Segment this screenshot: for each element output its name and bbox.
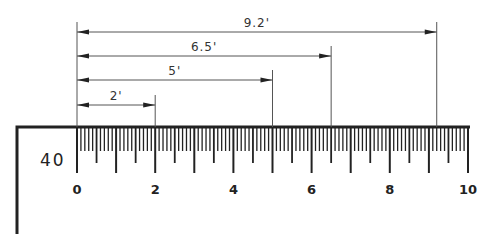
tick-label: 2 (151, 182, 160, 197)
tick-label: 6 (307, 182, 316, 197)
dimension-2: 2' (77, 89, 155, 127)
dimension-5: 5' (77, 64, 273, 127)
dimension-label: 6.5' (191, 40, 217, 54)
arrowhead-right-icon (425, 30, 437, 35)
tick-label: 8 (385, 182, 394, 197)
dimension-label: 9.2' (244, 16, 270, 30)
arrowhead-right-icon (319, 54, 331, 59)
arrowhead-left-icon (77, 54, 89, 59)
arrowhead-right-icon (143, 103, 155, 108)
tick-label: 4 (229, 182, 238, 197)
engineers-scale-diagram: 0246810 2'5'6.5'9.2' 40 (0, 0, 495, 234)
dimension-label: 2' (110, 89, 123, 103)
tick-label: 0 (72, 182, 81, 197)
arrowhead-right-icon (261, 78, 273, 83)
arrowhead-left-icon (77, 78, 89, 83)
dimension-6-5: 6.5' (77, 40, 331, 127)
scale-tick-labels: 0246810 (72, 182, 477, 197)
tick-label: 10 (459, 182, 477, 197)
scale-ticks (77, 127, 468, 173)
arrowhead-left-icon (77, 103, 89, 108)
dimension-lines: 2'5'6.5'9.2' (77, 16, 437, 127)
scale-ratio-label: 40 (40, 150, 66, 170)
diagram-canvas: 0246810 2'5'6.5'9.2' 40 (0, 0, 495, 234)
dimension-label: 5' (168, 64, 181, 78)
arrowhead-left-icon (77, 30, 89, 35)
dimension-9-2: 9.2' (77, 16, 437, 127)
